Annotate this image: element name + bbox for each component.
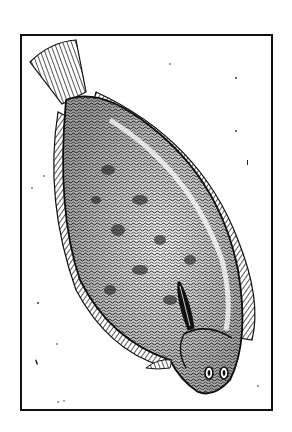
fish-body [63,96,242,393]
flatfish-illustration [0,0,292,432]
tail-fin [30,40,86,104]
